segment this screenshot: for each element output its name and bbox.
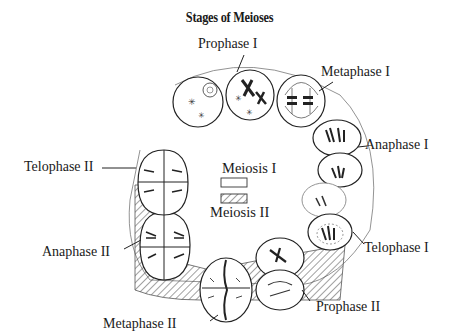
legend-meiosis-1-label: Meiosis I xyxy=(222,160,276,177)
svg-text:✳: ✳ xyxy=(198,111,205,120)
metaphase-1-cell xyxy=(277,75,325,127)
label-metaphase-2: Metaphase II xyxy=(103,316,176,332)
label-anaphase-2: Anaphase II xyxy=(42,244,110,260)
prophase-1-cell-b: ✳ ✳ xyxy=(226,70,274,120)
label-prophase-2: Prophase II xyxy=(316,299,380,315)
telophase-2-cells xyxy=(138,150,188,215)
label-metaphase-1: Metaphase I xyxy=(321,64,390,80)
anaphase-1-cell xyxy=(313,120,361,156)
label-prophase-1: Prophase I xyxy=(198,36,258,52)
legend-meiosis-1-swatch xyxy=(221,178,247,187)
telophase-1-cells xyxy=(302,153,362,250)
label-anaphase-1: Anaphase I xyxy=(365,137,428,153)
label-telophase-1: Telophase I xyxy=(364,240,429,256)
legend-meiosis-2-swatch xyxy=(221,194,247,203)
svg-text:✳: ✳ xyxy=(235,94,242,103)
svg-text:✳: ✳ xyxy=(246,108,253,117)
metaphase-2-cells xyxy=(200,258,252,322)
anaphase-2-cells xyxy=(140,212,190,280)
prophase-1-cell: ✳ ✳ xyxy=(173,77,223,127)
svg-text:✳: ✳ xyxy=(188,97,196,107)
label-telophase-2: Telophase II xyxy=(24,159,93,175)
legend-meiosis-2-label: Meiosis II xyxy=(210,204,269,221)
